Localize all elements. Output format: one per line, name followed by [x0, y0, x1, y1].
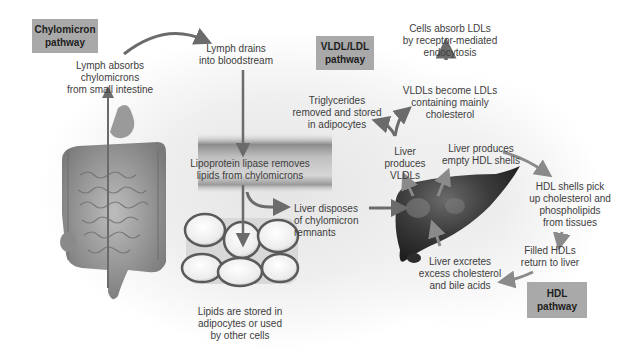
label-lymph-absorbs: Lymph absorbs chylomicrons from small in…: [58, 60, 162, 96]
arrow-excretes-to-liver: [434, 228, 440, 246]
arrow-liver-to-hdl: [438, 176, 446, 196]
label-lymph-drains: Lymph drains into bloodstream: [186, 43, 286, 67]
label-liver-produces-vldl: Liver produces VLDLs: [380, 146, 430, 182]
label-lipoprotein-lipase: Lipoprotein lipase removes lipids from c…: [185, 158, 315, 182]
arrow-pickup-to-filled: [560, 232, 562, 242]
label-liver-produces-hdl: Liver produces empty HDL shells: [436, 143, 526, 167]
chylomicron-pathway-label: Chylomicron pathway: [32, 19, 98, 53]
label-hdl-pick-up: HDL shells pick up cholesterol and phosp…: [522, 181, 618, 229]
arrow-filled-to-excretes: [506, 272, 533, 281]
vldl-ldl-pathway-label: VLDL/LDL pathway: [316, 36, 374, 70]
label-filled-hdl: Filled HDLs return to liver: [512, 245, 588, 269]
label-vldl-become-ldl: VLDLs become LDLs containing mainly chol…: [400, 85, 500, 121]
arrow-vessel-to-liver-disposes: [247, 192, 282, 207]
arrow-liver-to-vldl: [406, 180, 413, 196]
label-cells-absorb-ldl: Cells absorb LDLs by receptor-mediated e…: [396, 23, 504, 59]
label-liver-disposes: Liver disposes of chylomicron remnants: [294, 203, 374, 239]
hdl-pathway-label: HDL pathway: [527, 282, 587, 318]
label-lipids-stored: Lipids are stored in adipocytes or used …: [190, 306, 290, 342]
label-triglycerides-removed: Triglycerides removed and stored in adip…: [286, 95, 388, 131]
label-liver-excretes: Liver excretes excess cholesterol and bi…: [412, 256, 508, 292]
